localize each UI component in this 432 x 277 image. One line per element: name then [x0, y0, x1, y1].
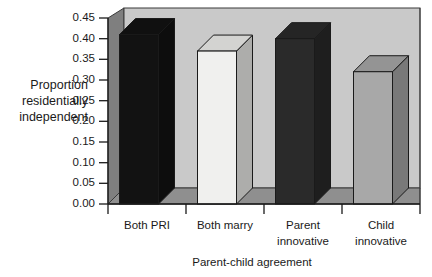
bar [198, 35, 253, 204]
bar-side-face [393, 56, 409, 204]
y-tick-label: 0.40 [73, 32, 95, 44]
bar [354, 56, 409, 204]
y-axis-title-line3: independent [19, 110, 88, 124]
x-tick-group [108, 204, 420, 214]
x-category-label: Both marry [197, 219, 253, 231]
bar-front-face [276, 39, 315, 204]
y-tick-label: 0.35 [73, 52, 95, 64]
bar-side-face [237, 35, 253, 204]
y-tick-label: 0.00 [73, 197, 95, 209]
chart-canvas: 0.45 0.40 0.35 0.30 0.25 0.20 0.15 0.10 … [0, 0, 432, 277]
bar [120, 19, 175, 204]
x-axis-title: Parent-child agreement [192, 256, 312, 268]
y-tick-label: 0.10 [73, 156, 95, 168]
x-category-labels: Both PRI Both marry Parent innovative Ch… [124, 219, 407, 247]
bar-side-face [159, 19, 175, 204]
x-category-label-line2: innovative [355, 235, 407, 247]
x-category-label: Both PRI [124, 219, 170, 231]
y-tick-label: 0.05 [73, 176, 95, 188]
y-tick-label: 0.45 [73, 11, 95, 23]
bar-side-face [315, 23, 331, 204]
x-category-label: Parent [286, 219, 321, 231]
bar-front-face [354, 72, 393, 204]
x-category-label: Child [368, 219, 394, 231]
y-tick-label: 0.15 [73, 135, 95, 147]
y-tick-group [99, 18, 108, 204]
x-category-label-line2: innovative [277, 235, 329, 247]
y-axis-title-line1: Proportion [30, 78, 88, 92]
bar-front-face [120, 35, 159, 204]
bar-front-face [198, 51, 237, 204]
bar-chart: 0.45 0.40 0.35 0.30 0.25 0.20 0.15 0.10 … [0, 0, 432, 277]
y-axis-title: Proportion residentially independent [19, 78, 89, 124]
y-axis-title-line2: residentially [22, 94, 89, 108]
bar [276, 23, 331, 204]
